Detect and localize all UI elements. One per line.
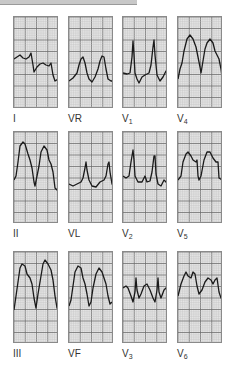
ecg-grid: [69, 132, 113, 223]
ecg-trace: [69, 266, 112, 306]
lead-label-v3: V3: [122, 349, 133, 362]
ecg-panel-vf: [68, 251, 113, 343]
top-border-bar: [0, 0, 137, 5]
ecg-panel-v3: [122, 251, 167, 343]
ecg-panel-ii: [13, 131, 58, 223]
lead-label-iii: III: [13, 349, 21, 359]
lead-label-v5: V5: [177, 229, 188, 242]
ecg-panel-v6: [177, 251, 222, 343]
ecg-grid: [14, 17, 58, 108]
ecg-panel-v2: [122, 131, 167, 223]
ecg-grid: [69, 252, 113, 343]
ecg-grid: [123, 132, 167, 223]
ecg-panel-iii: [13, 251, 58, 343]
lead-label-vf: VF: [68, 349, 81, 359]
ecg-grid: [69, 17, 113, 108]
ecg-panel-v1: [122, 16, 167, 108]
lead-label-v4: V4: [177, 114, 188, 127]
ecg-grid: [123, 252, 167, 343]
lead-label-v6: V6: [177, 349, 188, 362]
ecg-panel-v4: [177, 16, 222, 108]
ecg-grid: [123, 17, 167, 108]
lead-label-v1: V1: [122, 114, 133, 127]
ecg-panel-i: [13, 16, 58, 108]
lead-label-v2: V2: [122, 229, 133, 242]
lead-label-vl: VL: [68, 229, 80, 239]
lead-label-i: I: [13, 114, 16, 124]
ecg-grid: [178, 252, 222, 343]
ecg-grid: [178, 132, 222, 223]
lead-label-ii: II: [13, 229, 19, 239]
ecg-panel-v5: [177, 131, 222, 223]
lead-label-vr: VR: [68, 114, 82, 124]
ecg-panel-vr: [68, 16, 113, 108]
ecg-grid: [14, 132, 58, 223]
ecg-grid: [14, 252, 58, 343]
ecg-grid: [178, 17, 222, 108]
ecg-panel-vl: [68, 131, 113, 223]
